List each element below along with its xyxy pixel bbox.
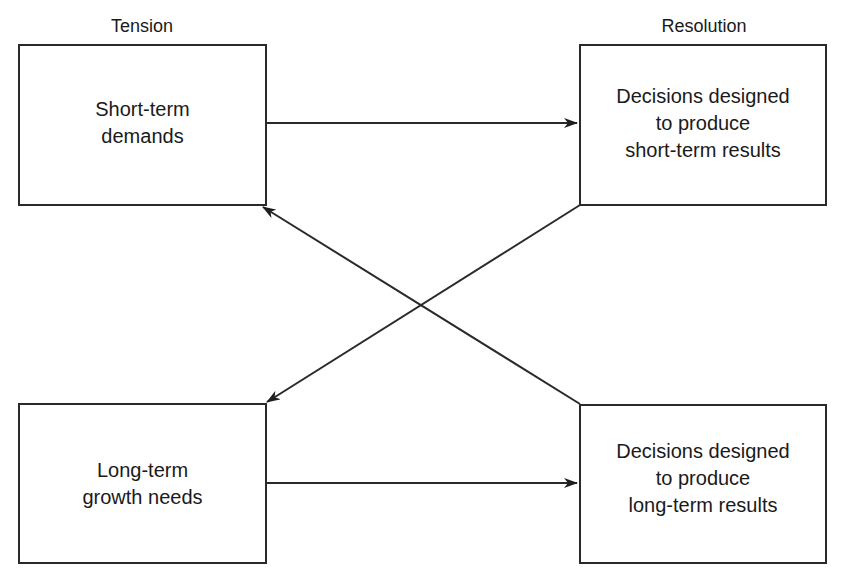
node-label: Decisions designed to produce long-term …	[581, 438, 825, 519]
node-label-line: Decisions designed	[581, 83, 825, 110]
node-label: Short-term demands	[20, 96, 265, 150]
node-label: Long-term growth needs	[20, 457, 265, 511]
resolution-heading: Resolution	[644, 16, 764, 36]
tension-heading: Tension	[100, 16, 184, 36]
edge-short-term-decisions-to-long-term-needs	[267, 205, 580, 402]
node-label-line: Decisions designed	[581, 438, 825, 465]
node-label-line: to produce	[581, 465, 825, 492]
node-label-line: to produce	[581, 110, 825, 137]
node-label-line: Long-term	[20, 457, 265, 484]
node-long-term-decisions: Decisions designed to produce long-term …	[579, 404, 827, 564]
node-short-term-demands: Short-term demands	[18, 44, 267, 206]
node-label-line: demands	[20, 123, 265, 150]
node-short-term-decisions: Decisions designed to produce short-term…	[579, 44, 827, 206]
node-label-line: Short-term	[20, 96, 265, 123]
node-label: Decisions designed to produce short-term…	[581, 83, 825, 164]
node-long-term-needs: Long-term growth needs	[18, 403, 267, 564]
edge-long-term-decisions-to-short-term-demands	[263, 207, 580, 404]
node-label-line: growth needs	[20, 484, 265, 511]
node-label-line: long-term results	[581, 492, 825, 519]
node-label-line: short-term results	[581, 137, 825, 164]
